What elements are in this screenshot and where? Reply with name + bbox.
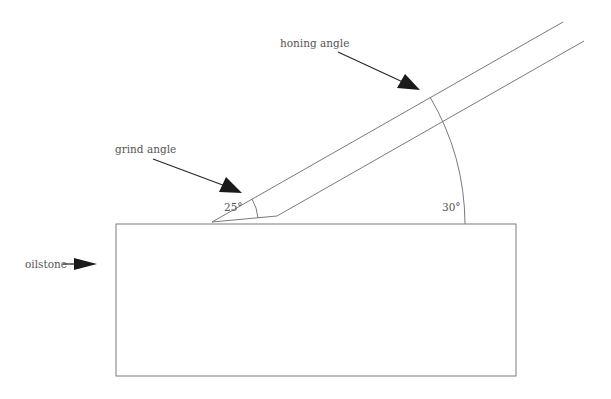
grind-angle-arrow [153, 159, 242, 193]
blade-bottom-edge [277, 41, 584, 216]
oilstone-block [116, 224, 516, 376]
grind-angle-value: 25° [224, 201, 243, 213]
grind-angle-label: grind angle [115, 143, 176, 155]
chisel-blade [212, 22, 584, 222]
blade-top-edge [212, 22, 563, 222]
sharpening-angle-diagram: honing angle grind angle oilstone 25° 30… [0, 0, 611, 399]
honing-angle-value: 30° [442, 201, 461, 213]
oilstone-arrow [63, 258, 97, 270]
oilstone-label: oilstone [25, 258, 67, 270]
grind-angle-arc [252, 199, 258, 218]
honing-angle-label: honing angle [280, 37, 349, 49]
honing-angle-arrow [338, 52, 420, 90]
